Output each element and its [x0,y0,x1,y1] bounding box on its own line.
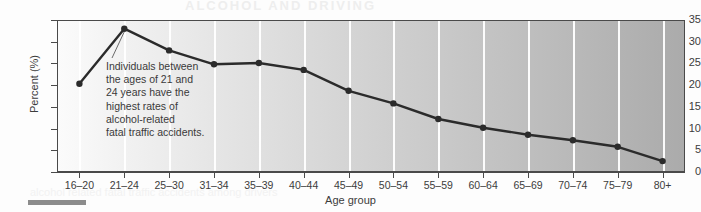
x-tick-mark [393,172,394,178]
callout-line: Individuals between [106,60,234,73]
x-tick-mark [124,172,125,178]
x-tick-mark [349,172,350,178]
callout-line: the ages of 21 and [106,73,234,86]
x-tick-mark [259,172,260,178]
x-axis-title: Age group [0,194,701,206]
callout-line: 24 years have the [106,86,234,99]
x-tick-mark [618,172,619,178]
gridline-vertical [259,21,261,171]
y-tick-label: 30 [655,36,701,47]
gridline-vertical [618,21,620,171]
y-tick-mark [51,63,57,64]
y-tick-mark [51,150,57,151]
y-tick-mark [51,20,57,21]
peak-callout-text: Individuals betweenthe ages of 21 and24 … [106,60,234,139]
y-tick-mark [51,129,57,130]
gridline-vertical [573,21,575,171]
gridline-vertical [304,21,306,171]
y-tick-mark [51,172,57,173]
x-tick-mark [79,172,80,178]
callout-line: fatal traffic accidents. [106,126,234,139]
gridline-vertical [393,21,395,171]
ghost-text-top: ALCOHOL AND DRIVING [185,0,395,14]
corner-marker-bar [28,200,86,205]
callout-line: alcohol-related [106,113,234,126]
gridline-vertical [438,21,440,171]
y-tick-label: 35 [655,14,701,25]
y-axis-title: Percent (%) [28,24,40,144]
x-tick-mark [214,172,215,178]
x-axis-line [57,172,685,173]
gridline-vertical [79,21,81,171]
y-tick-label: 5 [655,144,701,155]
gridline-vertical [483,21,485,171]
x-tick-mark [528,172,529,178]
x-tick-label: 80+ [635,180,691,191]
y-tick-label: 25 [655,57,701,68]
y-tick-label: 0 [655,166,701,177]
y-tick-mark [51,42,57,43]
x-tick-mark [573,172,574,178]
y-tick-label: 20 [655,79,701,90]
y-tick-label: 10 [655,123,701,134]
x-tick-mark [483,172,484,178]
chart-figure: ALCOHOL AND DRIVING alcohol related fata… [0,0,701,212]
x-tick-mark [663,172,664,178]
callout-line: highest rates of [106,100,234,113]
y-tick-mark [51,107,57,108]
gridline-vertical [528,21,530,171]
x-tick-mark [438,172,439,178]
y-tick-mark [51,85,57,86]
gridline-vertical [349,21,351,171]
y-axis-line [57,20,58,172]
x-tick-mark [169,172,170,178]
y-tick-label: 15 [655,101,701,112]
x-tick-mark [304,172,305,178]
